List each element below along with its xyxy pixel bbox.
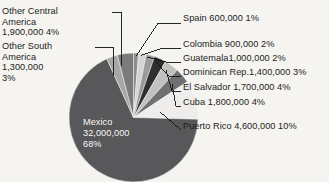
callout-mexico: Mexico 32,000,000 68% [83,117,129,149]
callout-osa-line3: 1,300,000 [2,62,43,72]
callout-other-south-america: Other South America 1,300,000 3% [2,41,94,83]
callout-mexico-line2: 32,000,000 [83,128,129,138]
callout-other-central-america: Other Central America 1,900,000 4% [2,6,110,38]
callout-osa-line2: America [2,52,36,62]
leader-spain [137,23,182,56]
callout-oca-line3: 1,900,000 4% [2,27,59,37]
callout-oca-line1: Other Central [2,6,58,16]
pie-chart-figure: Other Central America 1,900,000 4% Other… [0,0,329,182]
callout-el-salvador: El Salvador 1,700,000 4% [183,82,290,93]
callout-mexico-line3: 68% [83,139,102,149]
callout-oca-line2: America [2,17,36,27]
callout-puerto-rico: Puerto Rico 4,600,000 10% [183,121,297,132]
callout-guatemala: Guatemala1,000,000 2% [183,53,286,64]
callout-spain: Spain 600,000 1% [183,13,259,24]
callout-osa-line4: 3% [2,73,15,83]
callout-colombia: Colombia 900,000 2% [183,39,274,50]
callout-cuba: Cuba 1,800,000 4% [183,97,265,108]
callout-dominican-rep: Dominican Rep.1,400,000 3% [183,67,306,78]
callout-mexico-line1: Mexico [83,117,112,127]
callout-osa-line1: Other South [2,41,52,51]
